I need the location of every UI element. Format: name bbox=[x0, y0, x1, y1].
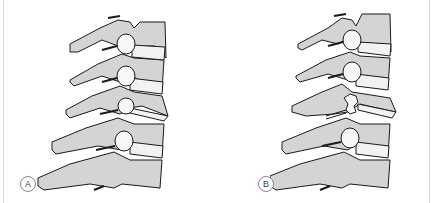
frame-border-left bbox=[3, 0, 4, 203]
figure-canvas: A bbox=[0, 0, 433, 203]
panel-b bbox=[270, 0, 430, 203]
panel-a bbox=[30, 0, 190, 203]
spine-illustration-a bbox=[30, 0, 190, 203]
panel-label-a: A bbox=[20, 176, 36, 192]
panel-label-b: B bbox=[258, 176, 274, 192]
spine-illustration-b bbox=[270, 0, 430, 203]
